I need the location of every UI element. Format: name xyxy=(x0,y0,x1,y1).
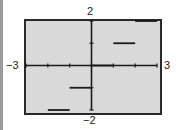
plot-svg xyxy=(0,0,176,130)
y-max-label: 2 xyxy=(87,6,93,17)
y-min-label: −2 xyxy=(83,115,96,126)
x-max-label: 3 xyxy=(164,60,170,71)
x-min-label: −3 xyxy=(6,60,19,71)
